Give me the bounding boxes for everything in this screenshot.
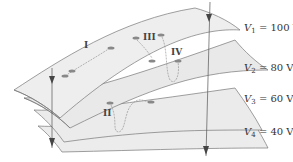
surface-label-v3: V3 = 60 V: [244, 93, 293, 106]
path-label-iv: IV: [171, 47, 182, 57]
arrow-down-icon: [203, 146, 209, 155]
path-label-iii: III: [143, 32, 156, 42]
surface-label-v1: V1 = 100 V: [244, 22, 293, 35]
surface-label-v2: V2 = 80 V: [244, 62, 293, 75]
surface-label-v4: V4 = 40 V: [244, 126, 293, 139]
arrow-down-icon: [49, 138, 55, 147]
path-label-ii: II: [103, 108, 111, 118]
path-label-i: I: [84, 40, 88, 50]
